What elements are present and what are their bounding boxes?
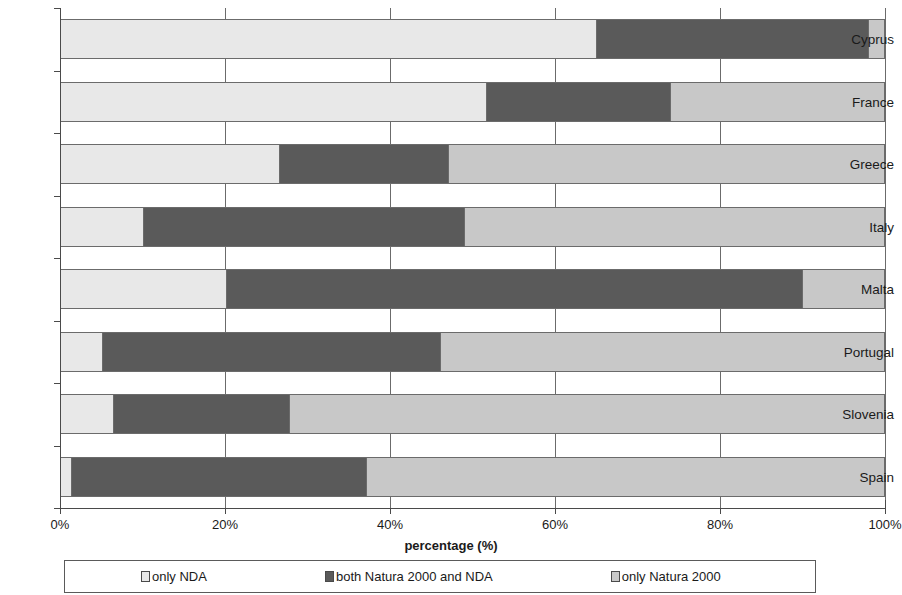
bar-segment	[61, 333, 102, 371]
bar-segment	[596, 20, 868, 58]
bar-segment	[366, 458, 884, 496]
stacked-bar-chart: CyprusFranceGreeceItalyMaltaPortugalSlov…	[0, 0, 902, 595]
bar-segment	[226, 270, 802, 308]
bar-segment	[61, 20, 596, 58]
y-tick-mark	[54, 196, 60, 197]
x-tick-label: 100%	[868, 517, 901, 532]
bar-segment	[289, 395, 884, 433]
x-tick-label: 80%	[707, 517, 733, 532]
x-tick-mark	[885, 508, 886, 514]
bar-row	[60, 332, 885, 372]
x-tick-mark	[60, 508, 61, 514]
bar-segment	[61, 270, 226, 308]
x-tick-mark	[720, 508, 721, 514]
x-tick-label: 40%	[377, 517, 403, 532]
bar-segment	[61, 458, 71, 496]
legend-item: both Natura 2000 and NDA	[325, 569, 493, 584]
y-tick-mark	[54, 133, 60, 134]
plot-area	[60, 8, 885, 508]
category-label-greece: Greece	[850, 157, 894, 172]
category-label-spain: Spain	[859, 469, 894, 484]
x-tick-label: 0%	[51, 517, 70, 532]
bar-segment	[71, 458, 366, 496]
y-tick-mark	[54, 383, 60, 384]
bar-segment	[61, 145, 279, 183]
legend-item: only NDA	[141, 569, 207, 584]
gridline-100pct	[885, 8, 886, 508]
legend-swatch-icon	[611, 571, 620, 582]
y-tick-mark	[54, 8, 60, 9]
bar-segment	[448, 145, 884, 183]
legend-item: only Natura 2000	[611, 569, 721, 584]
legend-label: both Natura 2000 and NDA	[336, 569, 493, 584]
x-tick-label: 60%	[542, 517, 568, 532]
bar-segment	[61, 208, 143, 246]
bar-segment	[102, 333, 439, 371]
legend-label: only Natura 2000	[622, 569, 721, 584]
x-tick-mark	[225, 508, 226, 514]
legend-label: only NDA	[152, 569, 207, 584]
category-label-cyprus: Cyprus	[851, 32, 894, 47]
bar-row	[60, 82, 885, 122]
category-label-france: France	[852, 94, 894, 109]
bar-segment	[279, 145, 448, 183]
bar-segment	[464, 208, 884, 246]
y-tick-mark	[54, 71, 60, 72]
x-tick-label: 20%	[212, 517, 238, 532]
bar-segment	[61, 395, 113, 433]
bar-row	[60, 394, 885, 434]
bar-segment	[440, 333, 884, 371]
legend-swatch-icon	[325, 571, 334, 582]
bar-segment	[143, 208, 464, 246]
bar-segment	[61, 83, 486, 121]
y-tick-mark	[54, 446, 60, 447]
y-axis-line	[60, 8, 61, 508]
bar-row	[60, 269, 885, 309]
category-label-italy: Italy	[869, 219, 894, 234]
bar-segment	[486, 83, 670, 121]
category-label-portugal: Portugal	[844, 344, 894, 359]
bar-row	[60, 19, 885, 59]
category-label-malta: Malta	[861, 282, 894, 297]
y-tick-mark	[54, 258, 60, 259]
x-axis-title: percentage (%)	[0, 538, 902, 553]
x-tick-mark	[555, 508, 556, 514]
legend-swatch-icon	[141, 571, 150, 582]
category-label-slovenia: Slovenia	[842, 407, 894, 422]
y-tick-mark	[54, 321, 60, 322]
bar-row	[60, 144, 885, 184]
bar-segment	[113, 395, 289, 433]
bar-row	[60, 457, 885, 497]
bar-row	[60, 207, 885, 247]
x-tick-mark	[390, 508, 391, 514]
x-axis-line	[60, 508, 886, 509]
legend: only NDAboth Natura 2000 and NDAonly Nat…	[64, 560, 816, 593]
